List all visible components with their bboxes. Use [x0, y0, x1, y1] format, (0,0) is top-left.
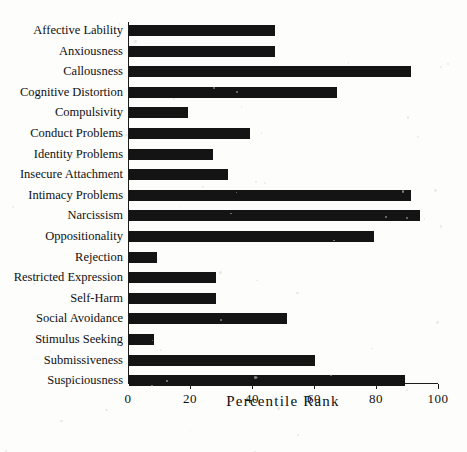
scan-speck — [166, 380, 167, 381]
category-label: Identity Problems — [0, 148, 123, 160]
scan-speck — [440, 66, 442, 68]
x-tick — [314, 384, 315, 389]
category-label: Submissiveness — [0, 354, 123, 366]
bar — [129, 334, 154, 345]
bar — [129, 46, 275, 57]
category-label: Affective Lability — [0, 24, 123, 36]
plot-area: 020406080100 — [128, 22, 438, 384]
category-label: Compulsivity — [0, 106, 123, 118]
scan-speck — [277, 407, 280, 410]
chart-page: Affective LabilityAnxiousnessCallousness… — [0, 0, 467, 452]
scan-speck — [190, 430, 191, 431]
category-axis-labels: Affective LabilityAnxiousnessCallousness… — [0, 22, 123, 384]
bar — [129, 190, 411, 201]
scan-speck — [264, 182, 266, 184]
bar — [129, 375, 405, 386]
category-label: Rejection — [0, 251, 123, 263]
scan-speck — [255, 181, 257, 183]
category-label: Stimulus Seeking — [0, 333, 123, 345]
scan-speck — [297, 434, 299, 436]
bar — [129, 293, 216, 304]
scan-speck — [447, 63, 449, 65]
scan-speck — [385, 216, 387, 218]
x-tick — [190, 384, 191, 389]
category-label: Restricted Expression — [0, 271, 123, 283]
category-label: Cognitive Distortion — [0, 86, 123, 98]
scan-speck — [440, 225, 442, 227]
scan-speck — [219, 271, 222, 274]
bar — [129, 252, 157, 263]
bar — [129, 210, 420, 221]
scan-speck — [436, 321, 439, 324]
category-label: Social Avoidance — [0, 312, 123, 324]
category-label: Oppositionality — [0, 230, 123, 242]
bar — [129, 169, 228, 180]
scan-speck — [406, 389, 408, 391]
scan-speck — [160, 349, 162, 351]
scan-speck — [241, 106, 242, 107]
scan-speck — [402, 190, 404, 192]
bar — [129, 87, 337, 98]
bar — [129, 272, 216, 283]
category-label: Intimacy Problems — [0, 189, 123, 201]
x-tick — [252, 384, 253, 389]
scan-speck — [348, 62, 349, 63]
x-axis-title: Percentile Rank — [128, 393, 438, 410]
bar — [129, 355, 315, 366]
x-tick — [376, 384, 377, 389]
scan-speck — [5, 450, 7, 452]
scan-speck — [134, 40, 136, 42]
scan-speck — [112, 174, 115, 177]
scan-speck — [107, 270, 109, 272]
bar — [129, 107, 188, 118]
bar — [129, 313, 287, 324]
bar — [129, 149, 213, 160]
scan-speck — [33, 283, 35, 285]
category-label: Callousness — [0, 65, 123, 77]
category-label: Suspiciousness — [0, 374, 123, 386]
scan-speck — [254, 376, 257, 379]
scan-speck — [296, 292, 298, 294]
scan-speck — [105, 409, 107, 411]
bar — [129, 66, 411, 77]
category-label: Insecure Attachment — [0, 168, 123, 180]
bar — [129, 25, 275, 36]
scan-speck — [125, 134, 128, 137]
scan-speck — [151, 385, 153, 387]
scan-speck — [77, 156, 80, 159]
x-tick — [438, 384, 439, 389]
bar — [129, 128, 250, 139]
bar — [129, 231, 374, 242]
category-label: Narcissism — [0, 209, 123, 221]
category-label: Self-Harm — [0, 292, 123, 304]
scan-speck — [60, 420, 63, 423]
category-label: Anxiousness — [0, 45, 123, 57]
category-label: Conduct Problems — [0, 127, 123, 139]
